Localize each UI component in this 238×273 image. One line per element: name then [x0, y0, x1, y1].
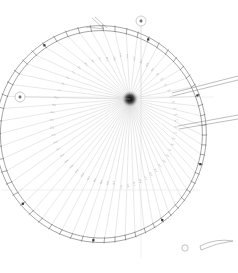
cad-drawing: 12.411.811.210.710.39.99.69.39.18.98.88.… — [0, 0, 238, 273]
station-marker — [22, 203, 24, 205]
station-marker — [43, 44, 45, 46]
station-marker — [92, 239, 94, 241]
station-marker — [199, 163, 201, 165]
station-marker — [161, 219, 163, 221]
station-marker — [147, 38, 149, 40]
station-marker — [196, 94, 198, 96]
drawing-canvas: 12.411.811.210.710.39.99.69.39.18.98.88.… — [0, 0, 238, 273]
